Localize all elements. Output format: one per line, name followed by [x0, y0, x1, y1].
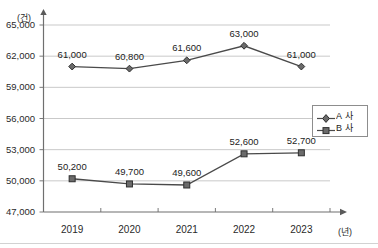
y-tick-label: 53,000: [0, 144, 35, 155]
bottom-divider: [0, 243, 378, 244]
data-value-label: 60,800: [103, 51, 155, 62]
y-tick-label: 65,000: [0, 19, 35, 30]
legend-item-a: A 사: [316, 109, 363, 121]
y-tick-label: 47,000: [0, 206, 35, 217]
data-value-label: 52,600: [218, 136, 270, 147]
data-point-marker: [69, 176, 75, 182]
data-value-label: 49,600: [161, 167, 213, 178]
data-value-label: 63,000: [218, 28, 270, 39]
data-point-marker: [241, 151, 247, 157]
data-value-label: 50,200: [46, 161, 98, 172]
square-marker-icon: [316, 122, 336, 133]
data-value-label: 61,600: [161, 42, 213, 53]
line-chart: (건) (년) 47,00050,00053,00056,00059,00062…: [0, 0, 378, 248]
diamond-marker-icon: [316, 110, 336, 121]
x-tick-label: 2023: [275, 224, 327, 235]
data-point-marker: [184, 182, 190, 188]
chart-legend: A 사 B 사: [312, 105, 368, 137]
data-point-marker: [298, 150, 304, 156]
data-point-marker: [298, 63, 305, 70]
data-value-label: 49,700: [103, 166, 155, 177]
x-axis-arrowhead: [340, 209, 347, 215]
data-value-label: 61,000: [275, 49, 327, 60]
legend-item-b: B 사: [316, 121, 363, 133]
legend-label-b: B 사: [336, 121, 353, 134]
data-point-marker: [126, 181, 132, 187]
x-tick-label: 2022: [218, 224, 270, 235]
x-tick-label: 2020: [103, 224, 155, 235]
data-point-marker: [183, 57, 190, 64]
y-tick-label: 62,000: [0, 50, 35, 61]
data-point-marker: [241, 42, 248, 49]
data-value-label: 61,000: [46, 49, 98, 60]
data-point-marker: [69, 63, 76, 70]
y-axis-arrowhead: [40, 9, 46, 15]
y-tick-label: 59,000: [0, 81, 35, 92]
y-tick-label: 56,000: [0, 113, 35, 124]
data-point-marker: [126, 65, 133, 72]
y-tick-label: 50,000: [0, 175, 35, 186]
x-tick-label: 2021: [161, 224, 213, 235]
x-tick-label: 2019: [46, 224, 98, 235]
